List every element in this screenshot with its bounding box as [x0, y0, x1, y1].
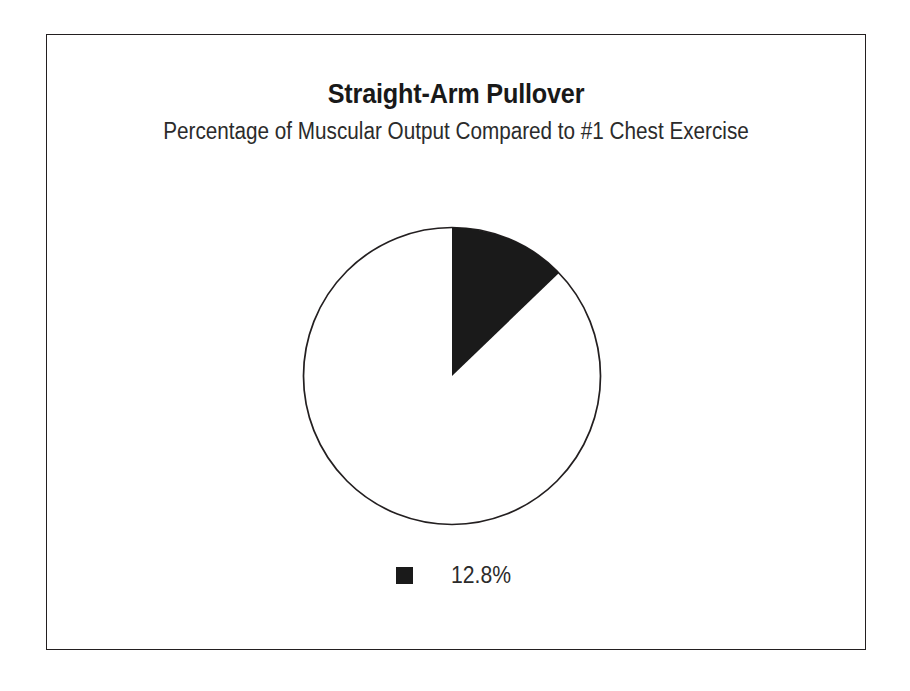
- figure-frame: Straight-Arm Pullover Percentage of Musc…: [46, 34, 866, 650]
- chart-title: Straight-Arm Pullover: [88, 79, 824, 108]
- chart-legend: 12.8%: [47, 562, 865, 589]
- pie-chart-plot: [301, 225, 603, 527]
- legend-item[interactable]: 12.8%: [396, 562, 516, 589]
- chart-subtitle: Percentage of Muscular Output Compared t…: [88, 119, 824, 143]
- legend-item-label: 12.8%: [451, 562, 511, 589]
- filled-square-icon: [396, 567, 413, 584]
